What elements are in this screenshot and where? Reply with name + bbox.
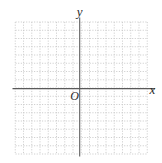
coordinate-plane-figure: y x O bbox=[0, 0, 162, 163]
origin-label: O bbox=[70, 89, 79, 103]
y-axis-label: y bbox=[75, 4, 83, 19]
coordinate-plane-svg: y x O bbox=[0, 0, 162, 163]
x-axis-label: x bbox=[149, 82, 156, 97]
figure-background bbox=[0, 0, 162, 163]
